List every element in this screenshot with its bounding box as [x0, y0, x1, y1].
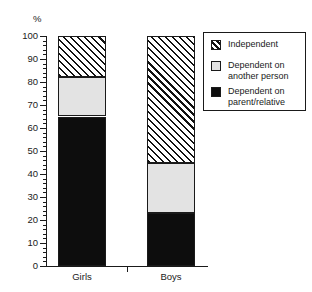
y-axis-minor-tick: [43, 146, 46, 147]
y-axis-minor-tick: [43, 133, 46, 134]
y-axis-tick-90: [40, 59, 46, 60]
legend-item-independent: Independent: [211, 39, 278, 50]
y-axis-minor-tick: [43, 183, 46, 184]
y-axis-label-60: 60: [8, 123, 38, 133]
bar-label-boys: Boys: [136, 272, 206, 282]
y-axis-label-30: 30: [8, 192, 38, 202]
y-axis-tick-60: [40, 128, 46, 129]
bar-boys-segment-parent-relative: [147, 213, 195, 266]
y-axis-minor-tick: [43, 165, 46, 166]
y-axis-minor-tick: [43, 206, 46, 207]
y-axis-label-90: 90: [8, 54, 38, 64]
y-axis-minor-tick: [43, 110, 46, 111]
y-axis-tick-80: [40, 82, 46, 83]
bar-boys-segment-another-person: [147, 163, 195, 214]
y-axis-minor-tick: [43, 123, 46, 124]
y-axis-tick-40: [40, 174, 46, 175]
y-axis-tick-10: [40, 243, 46, 244]
legend-label-independent: Independent: [228, 39, 278, 50]
y-axis-minor-tick: [43, 68, 46, 69]
y-axis-minor-tick: [43, 100, 46, 101]
y-axis-minor-tick: [43, 252, 46, 253]
y-axis-minor-tick: [43, 257, 46, 258]
bar-girls-segment-another-person: [58, 77, 106, 116]
y-axis-label-10: 10: [8, 238, 38, 248]
diagonal-hatch-swatch-icon: [211, 40, 221, 50]
y-axis-minor-tick: [43, 202, 46, 203]
y-axis-minor-tick: [43, 211, 46, 212]
y-axis-minor-tick: [43, 50, 46, 51]
bar-label-girls: Girls: [47, 272, 117, 282]
y-axis-minor-tick: [43, 64, 46, 65]
y-axis-minor-tick: [43, 188, 46, 189]
y-axis-minor-tick: [43, 96, 46, 97]
y-axis-minor-tick: [43, 229, 46, 230]
y-axis-label-70: 70: [8, 100, 38, 110]
y-axis-minor-tick: [43, 215, 46, 216]
y-axis-label-0: 0: [8, 261, 38, 271]
y-axis-minor-tick: [43, 156, 46, 157]
y-axis-minor-tick: [43, 160, 46, 161]
legend-label-parent-relative: Dependent on parent/relative: [228, 86, 285, 107]
y-axis-label-80: 80: [8, 77, 38, 87]
y-axis-line: [46, 36, 47, 266]
y-axis-minor-tick: [43, 114, 46, 115]
x-axis-tick-separator: [127, 266, 128, 272]
bar-girls-segment-independent: [58, 36, 106, 77]
y-axis-minor-tick: [43, 248, 46, 249]
legend-label-another-person: Dependent on another person: [228, 60, 289, 81]
y-axis-minor-tick: [43, 91, 46, 92]
y-axis-minor-tick: [43, 137, 46, 138]
y-axis-tick-20: [40, 220, 46, 221]
y-axis-minor-tick: [43, 54, 46, 55]
y-axis-unit-label: %: [33, 14, 41, 24]
y-axis-tick-50: [40, 151, 46, 152]
y-axis-minor-tick: [43, 119, 46, 120]
y-axis-label-100: 100: [8, 31, 38, 41]
chart-figure: % 1009080706050403020100 Girls Boys Inde…: [0, 0, 312, 292]
y-axis-minor-tick: [43, 45, 46, 46]
y-axis-label-20: 20: [8, 215, 38, 225]
y-axis-minor-tick: [43, 192, 46, 193]
bar-girls-segment-parent-relative: [58, 117, 106, 267]
y-axis-minor-tick: [43, 87, 46, 88]
bar-boys-segment-independent: [147, 36, 195, 163]
legend: Independent Dependent on another person …: [203, 32, 306, 111]
y-axis-minor-tick: [43, 261, 46, 262]
y-axis-minor-tick: [43, 179, 46, 180]
y-axis-tick-0: [40, 266, 46, 267]
y-axis-minor-tick: [43, 238, 46, 239]
legend-item-parent-relative: Dependent on parent/relative: [211, 86, 285, 107]
black-swatch-icon: [211, 87, 221, 97]
legend-item-another-person: Dependent on another person: [211, 60, 289, 81]
y-axis-minor-tick: [43, 169, 46, 170]
y-axis-minor-tick: [43, 142, 46, 143]
y-axis-minor-tick: [43, 234, 46, 235]
y-axis-minor-tick: [43, 225, 46, 226]
y-axis-tick-100: [40, 36, 46, 37]
light-gray-swatch-icon: [211, 61, 221, 71]
y-axis-label-50: 50: [8, 146, 38, 156]
y-axis-minor-tick: [43, 41, 46, 42]
y-axis-tick-30: [40, 197, 46, 198]
y-axis-tick-70: [40, 105, 46, 106]
y-axis-label-40: 40: [8, 169, 38, 179]
y-axis-minor-tick: [43, 73, 46, 74]
y-axis-minor-tick: [43, 77, 46, 78]
